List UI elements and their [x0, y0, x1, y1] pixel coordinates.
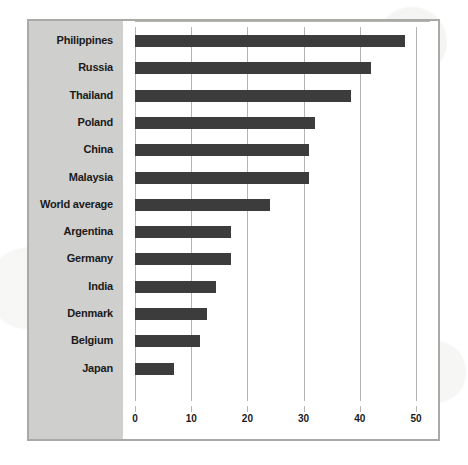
tick-mark-20	[247, 406, 248, 412]
tick-mark-30	[304, 406, 305, 412]
bar-japan[interactable]	[135, 363, 174, 375]
bar-russia[interactable]	[135, 62, 371, 74]
tick-mark-40	[360, 406, 361, 412]
x-axis-tick-labels: 01020304050	[135, 413, 416, 429]
bar-row	[135, 245, 438, 272]
bar-poland[interactable]	[135, 117, 315, 129]
bar-thailand[interactable]	[135, 90, 351, 102]
tick-label-20: 20	[242, 413, 253, 424]
bar-row	[135, 300, 438, 327]
category-label-denmark: Denmark	[67, 300, 113, 327]
tick-mark-0	[135, 406, 136, 412]
bar-row	[135, 82, 438, 109]
category-label-india: India	[88, 273, 113, 300]
bar-row	[135, 218, 438, 245]
bar-row	[135, 27, 438, 54]
category-label-china: China	[83, 136, 113, 163]
bar-row	[135, 136, 438, 163]
category-label-belgium: Belgium	[71, 327, 113, 354]
chart-figure: PhilippinesRussiaThailandPolandChinaMala…	[0, 0, 468, 465]
bar-row	[135, 164, 438, 191]
x-axis-line	[135, 21, 430, 22]
category-label-malaysia: Malaysia	[69, 164, 113, 191]
bar-row	[135, 355, 438, 382]
tick-mark-50	[416, 406, 417, 412]
tick-label-40: 40	[354, 413, 365, 424]
bar-philippines[interactable]	[135, 35, 405, 47]
bar-series	[135, 27, 438, 401]
category-label-germany: Germany	[67, 245, 113, 272]
bar-argentina[interactable]	[135, 226, 231, 238]
bar-denmark[interactable]	[135, 308, 207, 320]
tick-mark-10	[191, 406, 192, 412]
bar-row	[135, 191, 438, 218]
bar-row	[135, 109, 438, 136]
bar-row	[135, 54, 438, 81]
category-label-world-average: World average	[40, 191, 113, 218]
plot-area	[123, 21, 438, 439]
category-axis-labels: PhilippinesRussiaThailandPolandChinaMala…	[29, 27, 123, 401]
tick-label-30: 30	[298, 413, 309, 424]
tick-label-10: 10	[186, 413, 197, 424]
bar-india[interactable]	[135, 281, 216, 293]
bar-row	[135, 273, 438, 300]
chart-frame: PhilippinesRussiaThailandPolandChinaMala…	[27, 19, 440, 441]
category-label-philippines: Philippines	[57, 27, 113, 54]
bar-belgium[interactable]	[135, 335, 200, 347]
tick-label-0: 0	[132, 413, 138, 424]
category-label-russia: Russia	[78, 54, 113, 81]
category-label-japan: Japan	[82, 355, 113, 382]
bar-china[interactable]	[135, 144, 309, 156]
category-label-argentina: Argentina	[63, 218, 113, 245]
bar-malaysia[interactable]	[135, 172, 309, 184]
category-label-poland: Poland	[78, 109, 113, 136]
bar-row	[135, 327, 438, 354]
bar-world-average[interactable]	[135, 199, 270, 211]
bar-germany[interactable]	[135, 253, 231, 265]
tick-label-50: 50	[410, 413, 421, 424]
category-label-thailand: Thailand	[69, 82, 113, 109]
